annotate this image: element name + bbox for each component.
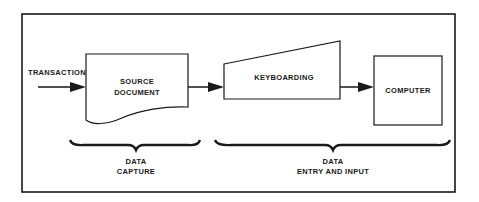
data-entry-line1: DATA	[323, 157, 344, 166]
node-keyboarding: KEYBOARDING	[224, 41, 340, 99]
brace-data-entry-input: DATA ENTRY AND INPUT	[215, 140, 450, 176]
data-entry-line2: ENTRY AND INPUT	[297, 167, 369, 176]
data-capture-line1: DATA	[126, 157, 147, 166]
keyboarding-label: KEYBOARDING	[254, 73, 314, 82]
arrow-transaction-to-source	[38, 82, 86, 92]
arrow-keyboarding-to-computer	[340, 82, 374, 92]
source-document-line1: SOURCE	[120, 77, 154, 86]
brace-data-capture: DATA CAPTURE	[70, 140, 200, 176]
source-document-line2: DOCUMENT	[114, 88, 160, 97]
node-source-document: SOURCE DOCUMENT	[86, 54, 188, 124]
transaction-label: TRANSACTION	[28, 68, 86, 77]
data-flow-diagram: TRANSACTION SOURCE DOCUMENT KEYBOARDING …	[0, 0, 479, 202]
computer-label: COMPUTER	[385, 86, 431, 95]
data-capture-line2: CAPTURE	[117, 167, 155, 176]
node-computer: COMPUTER	[374, 56, 442, 125]
arrow-source-to-keyboarding	[188, 82, 224, 92]
